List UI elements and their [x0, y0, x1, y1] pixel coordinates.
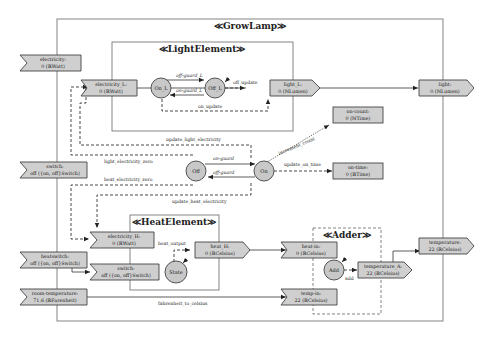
svg-text:0 (ℝCelsius): 0 (ℝCelsius)	[205, 251, 235, 256]
label-off-guard: off-guard	[213, 170, 234, 176]
label-light-electricity-zero: light_electricity_zero	[104, 159, 153, 165]
adder-title: ≪Adder≫	[323, 230, 371, 240]
initial-add-marker	[342, 258, 346, 262]
label-increment-count: increment_count	[278, 136, 317, 157]
port-temperature-a[interactable]: temperature_A: 22 (ℝCelsius)	[358, 262, 412, 278]
port-heat-h[interactable]: heat_H: 0 (ℝCelsius)	[195, 242, 250, 258]
output-light[interactable]: light: 0 (ℕLumen)	[419, 80, 474, 96]
svg-text:on-time:: on-time:	[348, 165, 368, 170]
port-on-time[interactable]: on-time: 0 (ℝTime)	[333, 163, 383, 179]
svg-text:switch:: switch:	[46, 164, 64, 169]
output-temperature[interactable]: temperature: 22 (ℝCelsius)	[419, 238, 474, 254]
light-element-title: ≪LightElement≫	[159, 44, 246, 54]
label-heat-output: heat_output	[158, 241, 186, 247]
port-light-l[interactable]: light_L: 0 (ℕLumen)	[270, 80, 320, 96]
svg-text:temp-in:: temp-in:	[301, 291, 322, 296]
port-temp-in[interactable]: temp-in: 22 (ℝCelsius)	[281, 289, 337, 305]
svg-text:On_L: On_L	[154, 85, 168, 92]
input-room-temperature[interactable]: room-temperature: 71.6 (ℝFarenheit)	[20, 289, 87, 305]
label-on-guard-l: on-guard_L	[176, 88, 202, 94]
svg-text:heat-in:: heat-in:	[302, 244, 321, 249]
svg-text:22 (ℝCelsius): 22 (ℝCelsius)	[367, 271, 400, 276]
svg-text:0 (ℕLumen): 0 (ℕLumen)	[430, 89, 460, 94]
crest-diagram: ≪GrowLamp≫ ≪LightElement≫ ≪HeatElement≫ …	[0, 0, 493, 339]
label-off-guard-l: off-guard_L	[176, 73, 203, 79]
label-update-light-electricity: update_light_electricity	[166, 137, 221, 143]
svg-text:room-temperature:: room-temperature:	[32, 291, 79, 296]
svg-text:71.6 (ℝFarenheit): 71.6 (ℝFarenheit)	[33, 298, 77, 303]
svg-text:22 (ℝCelsius): 22 (ℝCelsius)	[429, 247, 462, 252]
svg-text:0 (ℝWatt): 0 (ℝWatt)	[112, 241, 136, 246]
initial-state-marker	[183, 259, 187, 263]
svg-text:off ({on, off}Switch): off ({on, off}Switch)	[30, 261, 80, 266]
svg-text:on-count:: on-count:	[347, 109, 370, 114]
svg-text:temperature:: temperature:	[429, 240, 462, 245]
state-on[interactable]: On	[254, 161, 274, 181]
svg-text:heatswitch:: heatswitch:	[41, 254, 70, 259]
label-off-update: off_update	[233, 80, 258, 86]
label-update-heat-electricity: update_heat_electricity	[172, 199, 227, 205]
svg-text:Off_L: Off_L	[208, 85, 222, 92]
input-switch[interactable]: switch: off ({on, off}Switch)	[20, 162, 87, 178]
state-add[interactable]: Add	[324, 260, 344, 280]
initial-off-l-marker	[225, 78, 229, 82]
svg-text:Add: Add	[328, 267, 340, 273]
label-on-update: on_update	[198, 104, 222, 110]
svg-text:Off: Off	[192, 168, 200, 174]
svg-text:22 (ℝCelsius): 22 (ℝCelsius)	[295, 298, 328, 303]
input-electricity[interactable]: electricity: 0 (ℝWatt)	[20, 55, 81, 71]
port-on-count[interactable]: on-count: 0 (ℕTime)	[333, 107, 383, 123]
svg-text:0 (ℝWatt): 0 (ℝWatt)	[41, 64, 65, 69]
label-heat-electricity-zero: heat_electricity_zero	[104, 177, 153, 183]
label-update-on-time: update_on_time	[284, 162, 321, 168]
heat-electricity-zero-connection	[71, 185, 193, 239]
label-fahrenheit-to-celsius: fahrenheit_to_celsius	[158, 301, 208, 307]
update-light-electricity-connection	[80, 88, 251, 158]
svg-text:0 (ℕLumen): 0 (ℕLumen)	[278, 89, 308, 94]
svg-text:0 (ℝTime): 0 (ℝTime)	[346, 172, 371, 177]
svg-text:0 (ℝWatt): 0 (ℝWatt)	[99, 89, 123, 94]
state-heat[interactable]: State	[165, 261, 187, 283]
svg-text:switch:: switch:	[117, 266, 135, 271]
light-element-container	[112, 42, 293, 131]
svg-text:State: State	[169, 269, 182, 275]
label-on-guard: on-guard	[213, 156, 234, 162]
state-off[interactable]: Off	[186, 161, 206, 181]
port-electricity-l[interactable]: electricity_L: 0 (ℝWatt)	[81, 80, 137, 96]
port-electricity-h[interactable]: electricity_H: 0 (ℝWatt)	[90, 232, 154, 248]
svg-text:off ({on, off}Switch): off ({on, off}Switch)	[101, 273, 151, 278]
state-off-l[interactable]: Off_L	[205, 78, 225, 98]
port-switch-h[interactable]: switch: off ({on, off}Switch)	[90, 264, 159, 280]
svg-text:On: On	[260, 168, 268, 174]
heat-output-connection	[174, 250, 190, 262]
state-on-l[interactable]: On_L	[151, 78, 171, 98]
svg-text:0 (ℝCelsius): 0 (ℝCelsius)	[296, 251, 326, 256]
growlamp-title: ≪GrowLamp≫	[214, 21, 286, 31]
heat-element-title: ≪HeatElement≫	[132, 217, 216, 227]
input-heatswitch[interactable]: heatswitch: off ({on, off}Switch)	[20, 252, 87, 268]
svg-text:0 (ℕTime): 0 (ℕTime)	[346, 116, 371, 121]
port-heat-in[interactable]: heat-in: 0 (ℝCelsius)	[281, 242, 337, 258]
svg-text:off ({on, off}Switch): off ({on, off}Switch)	[30, 171, 80, 176]
label-add: add	[345, 276, 354, 281]
